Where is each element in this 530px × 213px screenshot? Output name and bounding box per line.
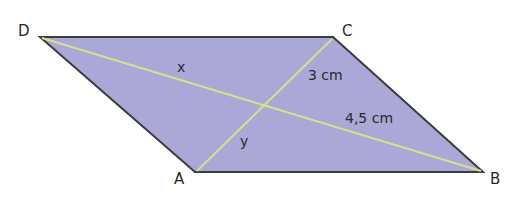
vertex-label-b: B — [490, 170, 500, 188]
parallelogram-diagram: D C B A x 3 cm 4,5 cm y — [0, 0, 530, 213]
segment-label-3cm: 3 cm — [308, 67, 343, 83]
segment-label-y: y — [240, 133, 248, 149]
segment-label-45cm: 4,5 cm — [345, 110, 393, 126]
vertex-label-c: C — [342, 22, 352, 40]
segment-label-x: x — [177, 59, 185, 75]
vertex-label-a: A — [174, 170, 185, 188]
vertex-label-d: D — [18, 22, 30, 40]
